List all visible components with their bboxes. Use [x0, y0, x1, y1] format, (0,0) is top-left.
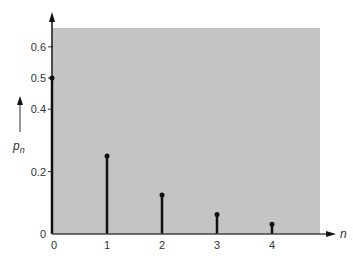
stem-marker [105, 154, 110, 159]
y-axis-ticks: 00.20.40.50.6 [31, 41, 53, 240]
x-axis-arrow-icon [326, 231, 336, 237]
y-tick-label: 0.5 [31, 72, 46, 84]
x-tick-label: 1 [104, 239, 110, 251]
y-axis-arrow-icon [49, 12, 55, 22]
x-tick-label: 0 [51, 239, 57, 251]
stem-marker [215, 212, 220, 217]
stem-chart: 00.20.40.50.6 01234 n pn [0, 0, 353, 260]
plot-area [53, 28, 320, 234]
y-label-arrow-icon [17, 96, 23, 105]
y-tick-label: 0.2 [31, 166, 46, 178]
x-tick-label: 2 [159, 239, 165, 251]
x-tick-label: 3 [214, 239, 220, 251]
stem-marker [160, 193, 165, 198]
y-tick-label: 0.4 [31, 103, 46, 115]
y-tick-label: 0.6 [31, 41, 46, 53]
x-axis-ticks: 01234 [51, 239, 275, 251]
stem-marker [270, 222, 275, 227]
y-axis-label: pn [12, 139, 25, 155]
y-tick-label: 0 [40, 228, 46, 240]
x-tick-label: 4 [269, 239, 275, 251]
y-axis-label-sub: n [20, 145, 25, 155]
x-axis-label: n [340, 227, 347, 241]
